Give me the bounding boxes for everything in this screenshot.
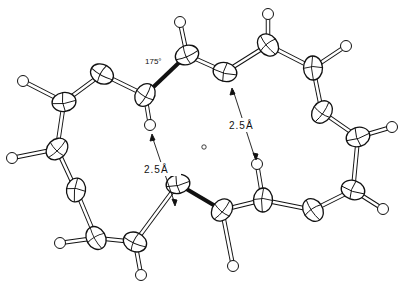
hydrogen-atom: [387, 122, 398, 133]
angle-label: 175°: [145, 57, 162, 66]
ortep-drawing: 2.5Å 2.5Å 175°: [0, 0, 406, 287]
carbon-atom: [120, 228, 150, 255]
carbon-atom: [298, 195, 327, 226]
carbon-atom: [82, 223, 110, 253]
carbon-atom: [65, 177, 87, 203]
hydrogen-atom: [7, 153, 18, 164]
hydrogen-atom: [341, 41, 352, 52]
distance-label-right: 2.5Å: [229, 119, 254, 131]
carbon-atom: [303, 56, 323, 81]
hydrogen-atom: [175, 17, 186, 28]
carbon-atom: [307, 97, 336, 128]
hydrogen-atom: [263, 9, 274, 20]
ring-centroid: [202, 145, 206, 149]
hydrogen-atom: [18, 76, 29, 87]
hydrogen-atom: [252, 159, 263, 170]
distance-label-left: 2.5Å: [144, 163, 169, 175]
hydrogen-atom: [378, 204, 389, 215]
hydrogen-atom: [136, 270, 147, 281]
carbon-atom: [253, 30, 283, 61]
carbon-atom: [253, 188, 273, 213]
hydrogen-atom: [55, 238, 66, 249]
hydrogen-atom: [228, 261, 239, 272]
bonds: [12, 14, 392, 275]
molecule-diagram: 2.5Å 2.5Å 175°: [0, 0, 406, 287]
carbon-atom: [42, 134, 72, 164]
carbon-atom: [207, 195, 237, 226]
hydrogen-atom: [145, 120, 156, 131]
